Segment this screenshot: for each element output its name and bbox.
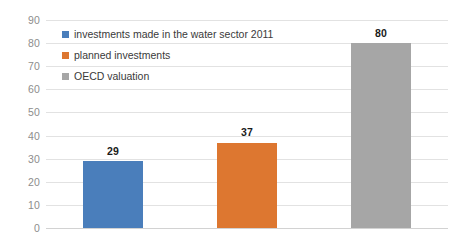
y-axis-tick-label: 0 xyxy=(0,223,40,234)
y-axis-tick-label: 20 xyxy=(0,177,40,188)
legend-swatch-icon xyxy=(62,31,69,38)
legend-item-label: investments made in the water sector 201… xyxy=(74,29,273,40)
gridline xyxy=(46,20,448,21)
legend-item[interactable]: planned investments xyxy=(62,45,302,66)
y-axis-tick-label: 50 xyxy=(0,107,40,118)
bar xyxy=(217,143,277,229)
legend-swatch-icon xyxy=(62,52,69,59)
bar-value-label: 80 xyxy=(351,28,411,39)
y-axis-tick-label: 80 xyxy=(0,38,40,49)
legend-item-label: OECD valuation xyxy=(74,71,149,82)
bar xyxy=(83,161,143,228)
y-axis-tick-label: 90 xyxy=(0,15,40,26)
bar-chart: 9080706050403020100 293780 investments m… xyxy=(0,0,469,244)
y-axis-tick-label: 60 xyxy=(0,84,40,95)
legend: investments made in the water sector 201… xyxy=(62,24,302,87)
bar-value-label: 29 xyxy=(83,146,143,157)
y-axis: 9080706050403020100 xyxy=(0,20,40,228)
legend-item[interactable]: investments made in the water sector 201… xyxy=(62,24,302,45)
bar xyxy=(351,43,411,228)
legend-swatch-icon xyxy=(62,73,69,80)
y-axis-tick-label: 40 xyxy=(0,130,40,141)
y-axis-tick-label: 70 xyxy=(0,61,40,72)
legend-item[interactable]: OECD valuation xyxy=(62,66,302,87)
bar-value-label: 37 xyxy=(217,127,277,138)
y-axis-tick-label: 30 xyxy=(0,153,40,164)
y-axis-tick-label: 10 xyxy=(0,200,40,211)
gridline xyxy=(46,228,448,229)
legend-item-label: planned investments xyxy=(74,50,170,61)
